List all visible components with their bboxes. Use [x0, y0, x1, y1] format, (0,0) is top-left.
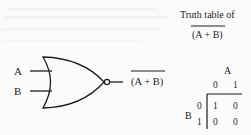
gate-body	[43, 57, 104, 108]
cell-b1-a1: 0	[233, 117, 238, 127]
column-header-0: 0	[213, 80, 218, 90]
input-label-b: B	[14, 85, 21, 97]
nor-gate-figure: A B (A + B) Truth table of (A + B) A 0 1…	[0, 0, 251, 135]
cell-b0-a0: 1	[213, 101, 218, 111]
column-variable-label: A	[224, 65, 232, 76]
cell-b1-a0: 0	[213, 117, 218, 127]
truth-table: A 0 1 B 0 1 1 0 0 0	[185, 65, 242, 129]
cell-b0-a1: 0	[233, 101, 238, 111]
row-header-1: 1	[197, 117, 202, 127]
input-label-a: A	[14, 65, 22, 77]
background-bleed-texture	[2, 8, 167, 42]
row-header-0: 0	[197, 101, 202, 111]
nor-gate	[30, 57, 123, 108]
truth-table-title-expression: (A + B)	[192, 29, 223, 41]
output-expression: (A + B)	[131, 76, 164, 88]
row-variable-label: B	[185, 110, 192, 121]
diagram-canvas: A B (A + B) Truth table of (A + B) A 0 1…	[0, 0, 251, 135]
column-header-1: 1	[233, 80, 238, 90]
truth-table-title: Truth table of	[180, 9, 235, 20]
inversion-bubble	[104, 79, 109, 84]
